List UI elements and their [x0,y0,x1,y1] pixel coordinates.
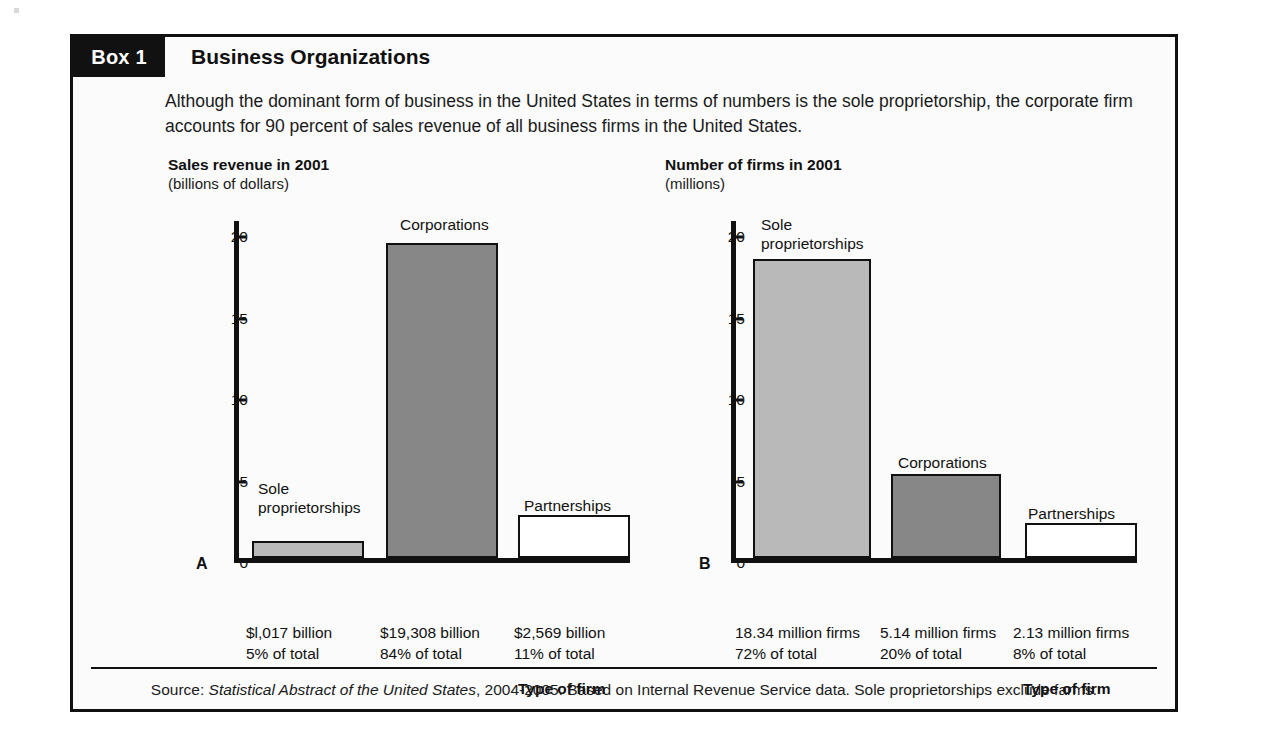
chart-a-title: Sales revenue in 2001 [168,155,648,174]
chart-b-ytickmark-15 [736,317,743,320]
chart-a-barlabel-sole-proprietorships: Sole proprietorships [258,479,361,517]
chart-a-ytickmark-20 [239,236,246,239]
chart-b-ytick-20: 20 [665,228,745,246]
chart-a-ytick-0: 0 [168,554,248,572]
chart-a-ytickmark-15 [239,317,246,320]
box-frame: Box 1 Business Organizations Although th… [70,34,1178,712]
chart-b-ytick-15: 15 [665,310,745,328]
chart-a-caption-sole-proprietorships: $l,017 billion 5% of total [246,622,332,664]
chart-b-caption-corporations: 5.14 million firms 20% of total [880,622,996,664]
chart-b-bar-sole-proprietorships [753,259,871,558]
source-prefix: Source: [151,681,209,698]
chart-a-plot: 20 15 10 5 0 A Sole proprietorships Corp… [168,203,648,603]
chart-b-ytickmark-5 [736,480,743,483]
chart-a-subtitle: (billions of dollars) [168,174,648,194]
chart-panel-b: Number of firms in 2001 (millions) 20 15… [665,155,1155,675]
chart-b-bar-partnerships [1025,523,1137,558]
box-intro-paragraph: Although the dominant form of business i… [165,89,1155,139]
chart-a-bar-partnerships [518,515,630,558]
chart-b-ytick-10: 10 [665,391,745,409]
chart-a-ytick-15: 15 [168,310,248,328]
chart-panel-a: Sales revenue in 2001 (billions of dolla… [168,155,648,675]
chart-a-bar-sole-proprietorships [252,541,364,558]
box-title: Business Organizations [165,37,430,77]
source-title: Statistical Abstract of the United State… [209,681,476,698]
chart-b-caption-sole-proprietorships: 18.34 million firms 72% of total [735,622,860,664]
chart-a-bar-corporations [386,243,498,558]
chart-a-barlabel-corporations: Corporations [400,215,489,234]
chart-b-x-axis [731,558,1137,563]
chart-b-ytickmark-10 [736,399,743,402]
chart-b-ytick-5: 5 [665,473,745,491]
box-number-label: Box 1 [73,37,165,77]
chart-b-panel-letter: B [699,555,711,573]
chart-b-barlabel-partnerships: Partnerships [1028,504,1115,523]
chart-a-caption-corporations: $19,308 billion 84% of total [380,622,480,664]
source-suffix: , 2004-2005. Based on Internal Revenue S… [476,681,1097,698]
chart-a-ytickmark-5 [239,480,246,483]
chart-b-barlabel-sole-proprietorships: Sole proprietorships [761,215,864,253]
box-header: Box 1 Business Organizations [73,37,1175,77]
chart-b-caption-partnerships: 2.13 million firms 8% of total [1013,622,1129,664]
chart-a-ytick-10: 10 [168,391,248,409]
chart-a-ytick-20: 20 [168,228,248,246]
chart-b-bar-corporations [891,474,1001,558]
chart-a-x-axis [234,558,630,563]
chart-a-ytickmark-10 [239,399,246,402]
chart-a-caption-partnerships: $2,569 billion 11% of total [514,622,605,664]
chart-b-barlabel-corporations: Corporations [898,453,987,472]
chart-a-barlabel-partnerships: Partnerships [524,496,611,515]
chart-b-title: Number of firms in 2001 [665,155,1155,174]
source-note: Source: Statistical Abstract of the Unit… [73,681,1175,699]
source-divider [91,667,1157,669]
chart-a-panel-letter: A [196,555,208,573]
scan-speck [14,8,19,13]
chart-b-ytickmark-20 [736,236,743,239]
chart-b-plot: 20 15 10 5 0 B Sole proprietorships Corp… [665,203,1155,603]
chart-b-subtitle: (millions) [665,174,1155,194]
chart-a-ytick-5: 5 [168,473,248,491]
charts-container: Sales revenue in 2001 (billions of dolla… [73,155,1175,675]
